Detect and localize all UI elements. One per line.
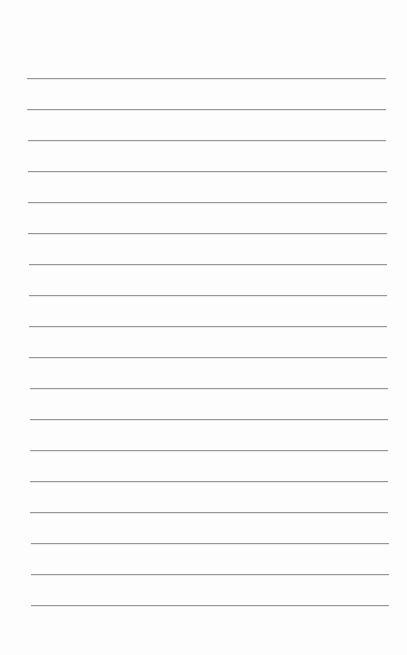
ruled-line [28, 171, 387, 172]
ruled-line [29, 295, 387, 296]
ruled-line [30, 481, 388, 482]
ruled-line [31, 543, 389, 544]
ruled-line [31, 574, 389, 575]
ruled-paper-page [0, 0, 407, 655]
ruled-line [28, 233, 387, 234]
ruled-line [29, 357, 387, 358]
ruled-line [29, 264, 387, 265]
ruled-line [28, 140, 386, 141]
ruled-line [31, 605, 389, 606]
ruled-line [27, 109, 386, 110]
ruled-line [30, 512, 388, 513]
ruled-line [30, 450, 388, 451]
ruled-line [29, 326, 387, 327]
ruled-line [27, 78, 386, 79]
ruled-line [30, 419, 388, 420]
ruled-line [30, 388, 388, 389]
ruled-line [28, 202, 387, 203]
